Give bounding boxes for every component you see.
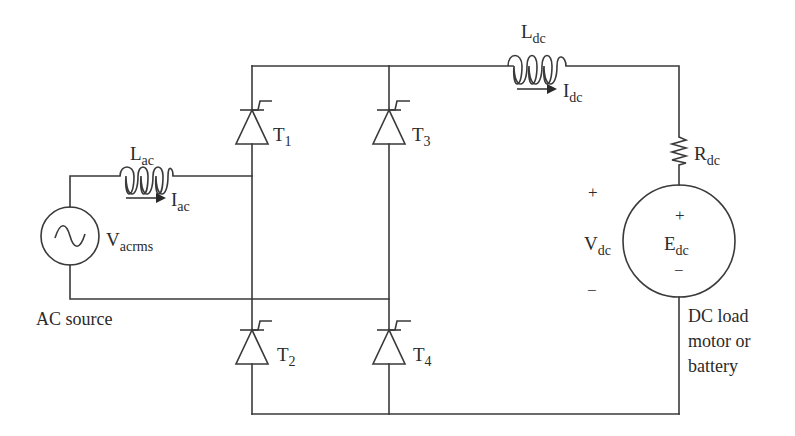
resistor-icon <box>672 137 686 165</box>
ac-source-caption: AC source <box>36 309 112 329</box>
lac-inductor: Lac Iac <box>120 143 190 214</box>
dc-load-caption: DC load motor or battery <box>688 306 755 376</box>
iac-label: Iac <box>171 189 190 214</box>
edc-minus: − <box>674 261 684 280</box>
top-rail-right-wire <box>566 66 679 137</box>
vdc-annotation: + Vdc − <box>584 183 611 300</box>
arrow-right-icon <box>547 84 557 94</box>
thyristor-icon <box>373 110 405 144</box>
thyristor-icon <box>236 330 268 364</box>
vdc-label: Vdc <box>584 233 611 258</box>
sine-wave-icon <box>55 226 85 247</box>
thyristor-t3: T3 <box>373 101 431 149</box>
dc-load-icon <box>623 185 735 297</box>
thyristor-icon <box>236 110 268 144</box>
edc-plus: + <box>675 206 685 225</box>
t2-label: T2 <box>277 344 296 369</box>
vdc-minus: − <box>587 281 597 300</box>
thyristor-icon <box>373 330 405 364</box>
ldc-inductor: Ldc Idc <box>508 21 583 105</box>
vacrms-label: Vacrms <box>106 229 153 254</box>
thyristor-t4: T4 <box>373 321 432 369</box>
ac-source-top-wire <box>70 176 120 207</box>
t4-label: T4 <box>413 344 432 369</box>
rdc-label: Rdc <box>694 143 720 168</box>
thyristor-t2: T2 <box>236 321 296 369</box>
gate-lead-icon <box>252 321 272 330</box>
idc-label: Idc <box>563 80 583 105</box>
t3-label: T3 <box>412 124 431 149</box>
inductor-coil-icon <box>120 167 173 194</box>
gate-lead-icon <box>252 101 272 110</box>
edc-label: Edc <box>664 233 689 258</box>
ac-return-wire <box>70 265 389 299</box>
ldc-label: Ldc <box>521 21 546 46</box>
lac-label: Lac <box>130 143 154 168</box>
rdc-resistor: Rdc <box>672 137 720 168</box>
ac-source: Vacrms AC source <box>36 207 153 329</box>
edc-load: + Edc − DC load motor or battery <box>623 185 755 376</box>
thyristor-t1: T1 <box>236 101 292 149</box>
vdc-plus: + <box>588 183 598 202</box>
gate-lead-icon <box>389 101 410 110</box>
rectifier-circuit-diagram: Vacrms AC source Lac Iac T1 T3 T2 T4 <box>0 0 795 436</box>
inductor-coil-icon <box>508 56 566 85</box>
t1-label: T1 <box>273 124 292 149</box>
gate-lead-icon <box>389 321 411 330</box>
